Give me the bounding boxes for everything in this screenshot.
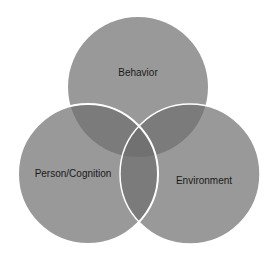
label-person-cognition: Person/Cognition (35, 168, 112, 179)
venn-diagram (0, 0, 274, 262)
label-environment: Environment (176, 175, 232, 186)
label-behavior: Behavior (118, 67, 157, 78)
